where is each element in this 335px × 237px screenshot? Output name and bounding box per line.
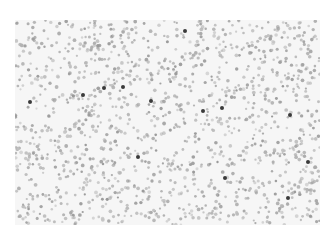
stained-cell	[223, 176, 227, 180]
stained-cell	[306, 160, 310, 164]
stained-cell	[102, 86, 106, 90]
stained-cell	[220, 106, 224, 110]
microscopy-field	[15, 20, 320, 225]
stained-cell	[121, 85, 125, 89]
stained-cell	[28, 100, 32, 104]
cell-scatter	[15, 20, 320, 225]
stained-cell	[201, 109, 205, 113]
stained-cell	[136, 155, 140, 159]
stained-cell	[183, 29, 187, 33]
stained-cell	[149, 99, 153, 103]
stained-cell	[81, 93, 85, 97]
stained-cell	[288, 113, 292, 117]
stained-cell	[286, 196, 290, 200]
